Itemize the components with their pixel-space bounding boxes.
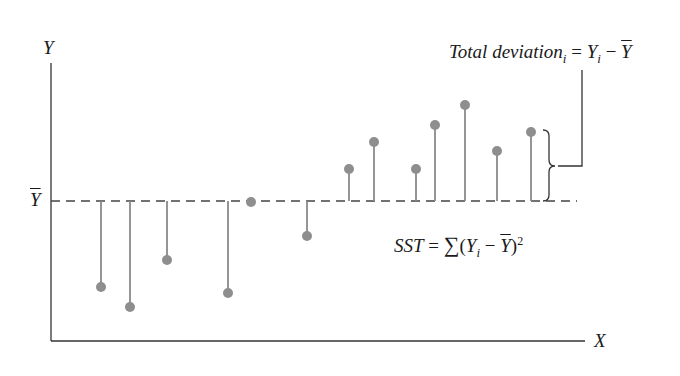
data-point xyxy=(344,164,354,174)
total-deviation-annotation: Total deviationi = Yi − Y xyxy=(449,42,632,61)
sst-text: SST xyxy=(394,235,424,256)
squared-exponent: 2 xyxy=(517,234,523,248)
i-subscript: i xyxy=(597,51,601,66)
axes xyxy=(51,63,585,341)
data-point xyxy=(492,146,502,156)
sst-formula: SST = ∑(Yi − Y)2 xyxy=(394,234,523,256)
minus-sign: − xyxy=(601,41,621,62)
mean-y-label: Y xyxy=(30,190,41,209)
curly-brace xyxy=(543,130,555,201)
data-point xyxy=(369,137,379,147)
annotation-connector xyxy=(558,70,582,166)
data-point xyxy=(96,282,106,292)
x-axis-label: X xyxy=(594,331,606,350)
y-i-symbol: Y xyxy=(466,235,477,256)
equals-sign: = xyxy=(424,235,444,256)
data-point xyxy=(430,120,440,130)
data-point xyxy=(223,288,233,298)
total-deviation-text: Total deviation xyxy=(449,41,563,62)
deviation-brace xyxy=(543,70,582,201)
deviation-stems xyxy=(101,105,531,307)
data-points xyxy=(96,100,536,312)
data-point xyxy=(162,255,172,265)
minus-sign: − xyxy=(480,235,500,256)
data-point xyxy=(125,302,135,312)
sigma-symbol: ∑ xyxy=(444,232,460,257)
i-subscript: i xyxy=(476,245,480,260)
data-point xyxy=(246,197,256,207)
data-point xyxy=(460,100,470,110)
data-point xyxy=(411,164,421,174)
equals-sign: = xyxy=(566,41,586,62)
y-axis-label: Y xyxy=(43,38,54,57)
total-deviation-subscript: i xyxy=(563,51,567,66)
y-i-symbol: Y xyxy=(587,41,598,62)
data-point xyxy=(526,127,536,137)
y-bar-symbol: Y xyxy=(500,235,511,256)
y-bar-symbol: Y xyxy=(621,41,632,62)
data-point xyxy=(302,231,312,241)
